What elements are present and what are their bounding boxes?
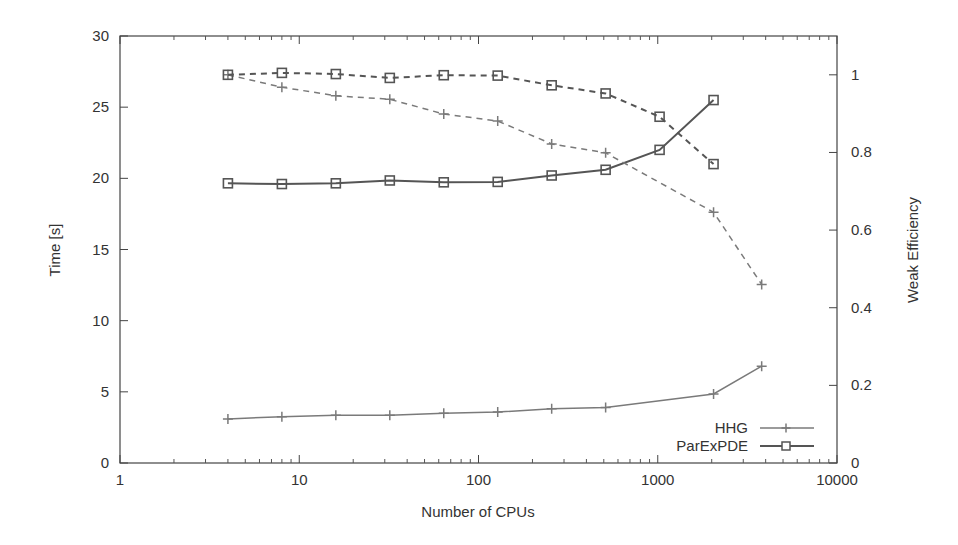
series-line: [228, 75, 762, 285]
y2-axis-title: Weak Efficiency: [904, 196, 921, 303]
x-tick-label: 1: [116, 471, 124, 488]
y2-tick-label: 0.4: [851, 299, 872, 316]
y-tick-label: 15: [92, 241, 109, 258]
plus-marker-icon: [601, 148, 611, 158]
x-axis-title: Number of CPUs: [421, 503, 534, 520]
plus-marker-icon: [547, 139, 557, 149]
plus-marker-icon: [757, 279, 767, 289]
y2-tick-label: 0.8: [851, 143, 872, 160]
y2-tick-label: 1: [851, 66, 859, 83]
y2-tick-label: 0: [851, 454, 859, 471]
series-line: [228, 366, 762, 419]
plus-marker-icon: [385, 94, 395, 104]
x-tick-label: 10000: [816, 471, 858, 488]
x-minor-ticks: [174, 36, 829, 463]
plus-marker-icon: [331, 410, 341, 420]
plus-marker-icon: [493, 407, 503, 417]
y-tick-label: 5: [101, 383, 109, 400]
plot-frame: [120, 36, 837, 463]
legend: HHG ParExPDE: [676, 419, 814, 454]
y-tick-label: 10: [92, 312, 109, 329]
plus-marker-icon: [709, 207, 719, 217]
plus-marker-icon: [782, 424, 791, 433]
plus-marker-icon: [757, 361, 767, 371]
x-tick-label: 100: [466, 471, 491, 488]
plus-marker-icon: [223, 414, 233, 424]
plus-marker-icon: [601, 402, 611, 412]
series-hhg: [223, 361, 767, 424]
y-axis-title: Time [s]: [46, 224, 63, 277]
y-tick-label: 30: [92, 27, 109, 44]
chart: 110100100010000 051015202530 00.20.40.60…: [0, 0, 958, 545]
series-line: [228, 100, 714, 184]
series-hhg-efficiency: [223, 70, 767, 290]
legend-label-hhg: HHG: [715, 419, 748, 436]
plus-marker-icon: [385, 410, 395, 420]
plot-area: 110100100010000 051015202530 00.20.40.60…: [92, 27, 872, 488]
legend-item-hhg: HHG: [715, 419, 814, 436]
series-line: [228, 73, 714, 164]
plus-marker-icon: [493, 116, 503, 126]
plus-marker-icon: [439, 408, 449, 418]
plus-marker-icon: [547, 404, 557, 414]
y2-tick-label: 0.2: [851, 376, 872, 393]
legend-item-parexpde: ParExPDE: [676, 437, 814, 454]
x-tick-label: 10: [291, 471, 308, 488]
y-tick-label: 20: [92, 169, 109, 186]
legend-label-parexpde: ParExPDE: [676, 437, 748, 454]
y2-axis-ticks: 00.20.40.60.81: [829, 66, 872, 471]
plus-marker-icon: [277, 82, 287, 92]
y-tick-label: 25: [92, 98, 109, 115]
y-axis-ticks: 051015202530: [92, 27, 128, 471]
series-layer: [223, 68, 767, 423]
x-tick-label: 1000: [641, 471, 674, 488]
plus-marker-icon: [709, 389, 719, 399]
square-marker-icon: [782, 442, 790, 450]
plus-marker-icon: [331, 91, 341, 101]
plus-marker-icon: [277, 412, 287, 422]
series-parexpde-efficiency: [223, 68, 718, 168]
y2-tick-label: 0.6: [851, 221, 872, 238]
y-tick-label: 0: [101, 454, 109, 471]
plus-marker-icon: [439, 109, 449, 119]
